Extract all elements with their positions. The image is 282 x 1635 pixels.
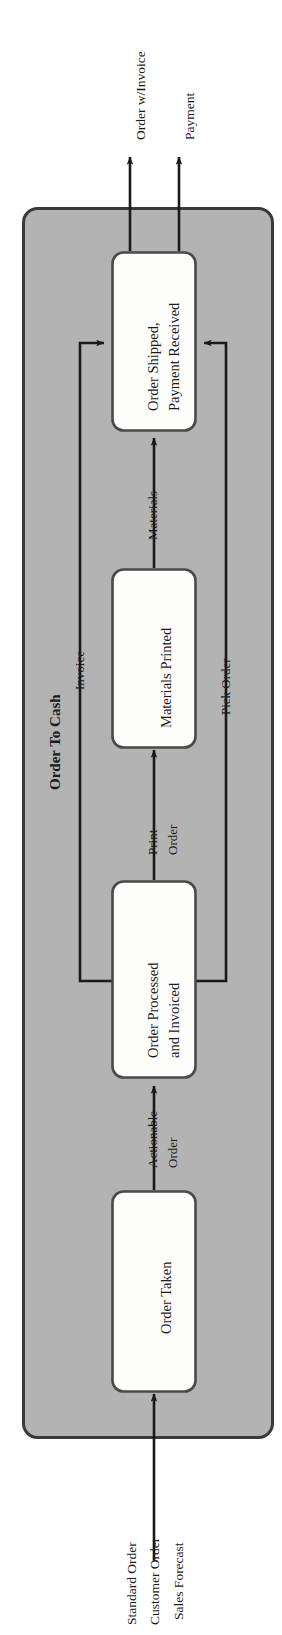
diagram-canvas: [0, 0, 282, 1635]
node-order-processed-and-invoiced[interactable]: [113, 882, 196, 1078]
node-materials-printed[interactable]: [113, 570, 196, 748]
node-order-shipped-payment-received[interactable]: [113, 253, 196, 431]
node-order-taken[interactable]: [113, 1192, 196, 1392]
process-diagram: Order w/Invoice Payment Order To Cash Or…: [0, 0, 282, 1635]
